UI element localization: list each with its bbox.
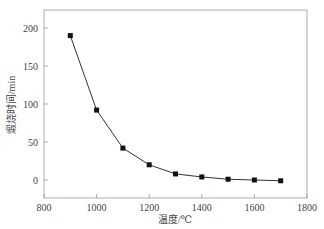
data-point-marker [226, 177, 231, 182]
data-point-marker [278, 178, 283, 183]
x-axis-label: 温度/℃ [158, 213, 192, 225]
y-axis-label: 煅烧时间/min [5, 76, 17, 134]
data-point-marker [173, 171, 178, 176]
y-tick-label: 200 [23, 23, 38, 34]
x-tick-label: 1600 [244, 202, 264, 213]
y-tick-label: 0 [33, 175, 38, 186]
data-point-marker [94, 108, 99, 113]
x-tick-label: 1400 [192, 202, 212, 213]
data-point-marker [68, 33, 73, 38]
x-tick-label: 800 [37, 202, 52, 213]
x-tick-label: 1000 [87, 202, 107, 213]
plot-frame [44, 10, 307, 198]
series-line [70, 36, 280, 181]
x-axis-ticks: 80010001200140016001800 [37, 194, 318, 213]
data-point-marker [252, 178, 257, 183]
data-point-marker [199, 174, 204, 179]
y-tick-label: 50 [28, 137, 38, 148]
x-tick-label: 1800 [297, 202, 317, 213]
line-chart: 050100150200 80010001200140016001800 温度/… [0, 0, 324, 229]
data-series [68, 33, 283, 183]
y-tick-label: 150 [23, 61, 38, 72]
x-tick-label: 1200 [139, 202, 159, 213]
data-point-marker [147, 162, 152, 167]
data-point-marker [120, 146, 125, 151]
y-tick-label: 100 [23, 99, 38, 110]
